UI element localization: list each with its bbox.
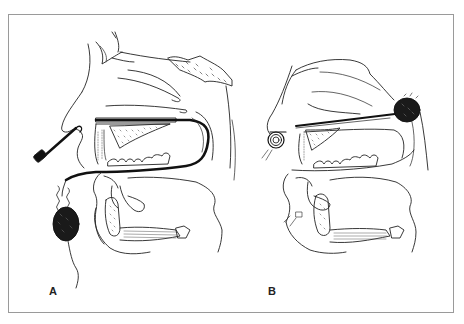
- panel-b-drawing: [262, 59, 428, 253]
- panel-label-b: B: [268, 285, 276, 297]
- panel-a-drawing: [33, 32, 235, 288]
- anatomy-diagram: [0, 0, 464, 324]
- panel-label-a: A: [49, 285, 57, 297]
